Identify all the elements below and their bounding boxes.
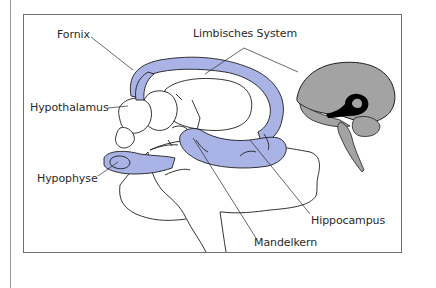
label-mandelkern: Mandelkern bbox=[254, 236, 317, 249]
leader-fornix bbox=[91, 37, 133, 70]
label-limbisches-system: Limbisches System bbox=[193, 27, 297, 40]
limbic-system-diagram bbox=[0, 0, 436, 288]
brain-inset bbox=[297, 62, 395, 172]
label-fornix: Fornix bbox=[57, 28, 90, 41]
label-hypothalamus: Hypothalamus bbox=[30, 101, 109, 114]
label-hippocampus: Hippocampus bbox=[311, 214, 385, 227]
label-hypophyse: Hypophyse bbox=[37, 172, 98, 185]
